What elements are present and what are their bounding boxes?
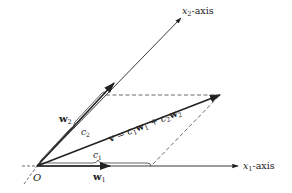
vector-diagram: O x1-axis x2-axis w1 w2 c1 c2 v = c1w1 +… [0, 0, 292, 193]
dashed-edge-right [152, 96, 219, 165]
x2-axis-label: x2-axis [182, 5, 214, 18]
v-equation-label: v = c1w1 + c2w2 [106, 106, 184, 146]
w1-label: w1 [92, 171, 106, 184]
c1-label: c1 [93, 150, 102, 161]
w2-vector [37, 83, 114, 166]
c1-brace [40, 160, 151, 166]
w2-label: w2 [58, 113, 72, 126]
c2-label: c2 [81, 127, 90, 138]
x1-axis-label: x1-axis [243, 160, 275, 173]
origin-label: O [33, 172, 41, 183]
